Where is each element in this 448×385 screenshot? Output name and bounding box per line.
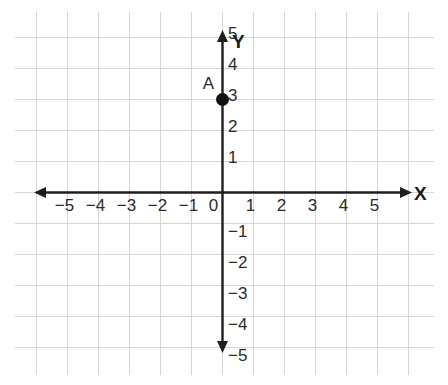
x-tick-label: 5 (370, 196, 379, 215)
y-tick-label: −1 (228, 222, 247, 241)
y-tick-label: 1 (228, 148, 237, 167)
x-tick-label: −2 (148, 196, 167, 215)
point-label-a: A (203, 74, 215, 93)
x-tick-label: −3 (117, 196, 136, 215)
y-tick-label: 2 (228, 117, 237, 136)
y-tick-label: −2 (228, 253, 247, 272)
x-tick-label: 4 (339, 196, 348, 215)
x-tick-label: 1 (246, 196, 255, 215)
x-tick-label: −1 (179, 196, 198, 215)
x-tick-label: −5 (55, 196, 74, 215)
y-tick-label: −3 (228, 284, 247, 303)
y-tick-label: 3 (228, 86, 237, 105)
coordinate-plane-figure: −5−4−3−2−101234554321−1−2−3−4−5 X Y A (0, 0, 448, 385)
x-axis-label: X (414, 183, 427, 204)
y-tick-label: 4 (228, 55, 237, 74)
y-tick-label: −4 (228, 315, 247, 334)
x-tick-label: −4 (86, 196, 105, 215)
y-tick-label: −5 (228, 346, 247, 365)
plotted-point-a[interactable] (216, 93, 229, 106)
x-tick-label: 3 (308, 196, 317, 215)
origin-tick-label: 0 (209, 196, 218, 215)
x-tick-label: 2 (277, 196, 286, 215)
y-axis-label: Y (232, 31, 245, 52)
coordinate-plane-svg: −5−4−3−2−101234554321−1−2−3−4−5 X Y A (0, 0, 448, 385)
